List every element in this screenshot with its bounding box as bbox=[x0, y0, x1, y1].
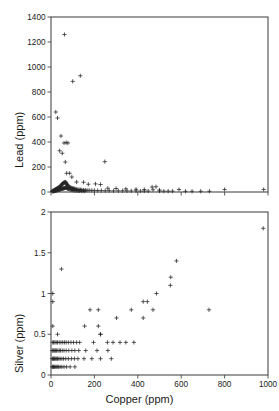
data-point-marker bbox=[151, 188, 155, 192]
y-tick-label: 400 bbox=[32, 138, 46, 147]
data-point-marker bbox=[95, 348, 99, 352]
y-tick-label: 600 bbox=[32, 113, 46, 122]
data-point-marker bbox=[166, 189, 170, 193]
lead-panel: Lead (ppm) 0200400600800100012001400 bbox=[0, 0, 279, 205]
data-point-marker bbox=[88, 308, 92, 312]
data-point-marker bbox=[55, 332, 59, 336]
data-point-marker bbox=[54, 110, 58, 114]
data-point-marker bbox=[103, 160, 107, 164]
data-point-marker bbox=[145, 300, 149, 304]
data-point-marker bbox=[93, 182, 97, 186]
data-point-marker bbox=[81, 180, 85, 184]
x-tick-label: 400 bbox=[131, 380, 145, 389]
data-point-marker bbox=[177, 187, 181, 191]
data-point-marker bbox=[207, 308, 211, 312]
data-point-marker bbox=[62, 32, 66, 36]
x-tick-label: 1000 bbox=[259, 380, 278, 389]
data-point-marker bbox=[124, 340, 128, 344]
copper-x-axis-title: Copper (ppm) bbox=[0, 393, 279, 405]
lead-y-axis-title: Lead (ppm) bbox=[13, 112, 25, 168]
data-point-marker bbox=[141, 300, 145, 304]
data-point-marker bbox=[114, 316, 118, 320]
data-point-marker bbox=[98, 332, 102, 336]
data-point-marker bbox=[82, 357, 86, 361]
data-point-marker bbox=[106, 348, 110, 352]
data-point-marker bbox=[141, 316, 145, 320]
data-point-marker bbox=[96, 308, 100, 312]
data-point-marker bbox=[183, 189, 187, 193]
data-point-marker bbox=[207, 189, 211, 193]
data-point-marker bbox=[68, 171, 72, 175]
data-point-marker bbox=[96, 324, 100, 328]
data-point-marker bbox=[98, 182, 102, 186]
y-tick-label: 0 bbox=[41, 188, 46, 197]
x-tick-label: 600 bbox=[174, 380, 188, 389]
data-point-marker bbox=[59, 267, 63, 271]
data-point-marker bbox=[98, 357, 102, 361]
data-point-marker bbox=[162, 189, 166, 193]
y-tick-label: 0.5 bbox=[34, 330, 46, 339]
data-points bbox=[50, 32, 266, 193]
data-point-marker bbox=[223, 187, 227, 191]
data-point-marker bbox=[132, 340, 136, 344]
data-point-marker bbox=[78, 340, 82, 344]
scatter-figure: Lead (ppm) 0200400600800100012001400 Sil… bbox=[0, 0, 279, 411]
y-tick-label: 2 bbox=[41, 208, 46, 217]
data-point-marker bbox=[63, 160, 67, 164]
data-point-marker bbox=[151, 308, 155, 312]
data-point-marker bbox=[86, 182, 90, 186]
data-point-marker bbox=[77, 348, 81, 352]
data-point-marker bbox=[60, 151, 64, 155]
plot-frame bbox=[51, 17, 268, 192]
data-point-marker bbox=[190, 189, 194, 193]
silver-scatter-plot: 00.511.5202004006008001000 bbox=[0, 205, 279, 411]
data-point-marker bbox=[59, 134, 63, 138]
plot-frame bbox=[51, 212, 268, 375]
data-point-marker bbox=[83, 324, 87, 328]
data-point-marker bbox=[154, 291, 158, 295]
data-point-marker bbox=[68, 365, 72, 369]
y-tick-label: 1200 bbox=[27, 38, 46, 47]
data-point-marker bbox=[168, 283, 172, 287]
x-tick-label: 200 bbox=[88, 380, 102, 389]
data-point-marker bbox=[71, 79, 75, 83]
data-point-marker bbox=[118, 340, 122, 344]
data-point-marker bbox=[129, 308, 133, 312]
data-point-marker bbox=[124, 187, 128, 191]
data-point-marker bbox=[169, 275, 173, 279]
data-point-marker bbox=[150, 185, 154, 189]
data-point-marker bbox=[91, 340, 95, 344]
silver-panel: Silver (ppm) 00.511.5202004006008001000 … bbox=[0, 205, 279, 411]
data-point-marker bbox=[114, 186, 118, 190]
data-point-marker bbox=[261, 226, 265, 230]
x-tick-label: 0 bbox=[49, 380, 54, 389]
data-points bbox=[50, 226, 265, 369]
y-tick-label: 1400 bbox=[27, 13, 46, 22]
y-tick-label: 1000 bbox=[27, 63, 46, 72]
silver-y-axis-title: Silver (ppm) bbox=[13, 314, 25, 373]
data-point-marker bbox=[154, 185, 158, 189]
data-point-marker bbox=[73, 365, 77, 369]
data-point-marker bbox=[75, 180, 79, 184]
lead-scatter-plot: 0200400600800100012001400 bbox=[0, 0, 279, 205]
data-point-marker bbox=[55, 116, 59, 120]
data-point-marker bbox=[174, 259, 178, 263]
data-point-marker bbox=[73, 348, 77, 352]
y-tick-label: 200 bbox=[32, 163, 46, 172]
data-point-marker bbox=[105, 340, 109, 344]
x-tick-label: 800 bbox=[218, 380, 232, 389]
data-point-marker bbox=[111, 340, 115, 344]
data-point-marker bbox=[199, 189, 203, 193]
data-point-marker bbox=[90, 357, 94, 361]
data-point-marker bbox=[109, 357, 113, 361]
data-point-marker bbox=[84, 348, 88, 352]
data-point-marker bbox=[76, 357, 80, 361]
y-tick-label: 1 bbox=[41, 290, 46, 299]
y-tick-label: 800 bbox=[32, 88, 46, 97]
y-tick-label: 0 bbox=[41, 371, 46, 380]
data-point-marker bbox=[170, 189, 174, 193]
y-tick-label: 1.5 bbox=[34, 249, 46, 258]
data-point-marker bbox=[58, 149, 62, 153]
data-point-marker bbox=[78, 74, 82, 78]
data-point-marker bbox=[262, 187, 266, 191]
